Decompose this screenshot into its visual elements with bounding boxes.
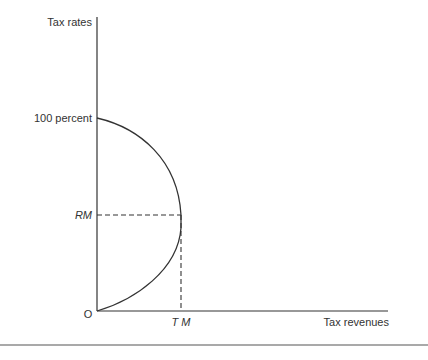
y-axis-label: Tax rates xyxy=(47,16,92,28)
laffer-curve-diagram: Tax rates 100 percent RM O T M Tax reven… xyxy=(0,0,428,360)
x-axis-label: Tax revenues xyxy=(324,316,390,328)
rm-label: RM xyxy=(75,209,93,221)
y-tick-100-percent: 100 percent xyxy=(34,112,92,124)
origin-label: O xyxy=(84,308,93,320)
tm-label: T M xyxy=(172,316,192,328)
laffer-curve-lower xyxy=(97,215,181,311)
laffer-curve-upper xyxy=(97,118,181,215)
